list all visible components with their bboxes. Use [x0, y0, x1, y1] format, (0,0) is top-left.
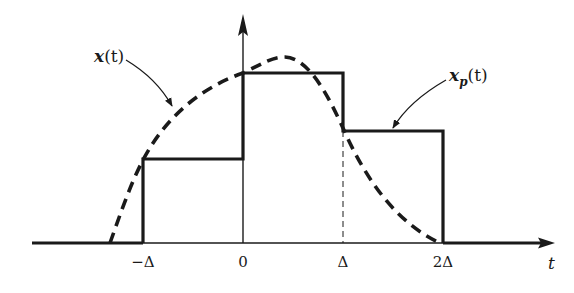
- x-label-arrow-icon: [126, 60, 172, 106]
- tick-label-minus-delta: −Δ: [131, 253, 155, 271]
- tick-label-zero: 0: [238, 253, 248, 271]
- xp-label: xp(t): [448, 65, 488, 89]
- staircase-xp-curve: [143, 73, 443, 243]
- xp-label-arrow-icon: [393, 80, 446, 128]
- continuous-x-curve: [110, 57, 440, 243]
- x-label-annotation: x(t): [93, 46, 172, 106]
- signal-diagram: x(t) xp(t) −Δ 0 Δ 2Δ t: [0, 0, 574, 293]
- tick-label-two-delta: 2Δ: [433, 253, 454, 271]
- x-label: x(t): [93, 46, 124, 66]
- tick-labels: −Δ 0 Δ 2Δ t: [131, 253, 555, 273]
- xp-label-annotation: xp(t): [393, 65, 488, 128]
- t-axis-label: t: [548, 253, 555, 273]
- tick-label-delta: Δ: [338, 253, 349, 271]
